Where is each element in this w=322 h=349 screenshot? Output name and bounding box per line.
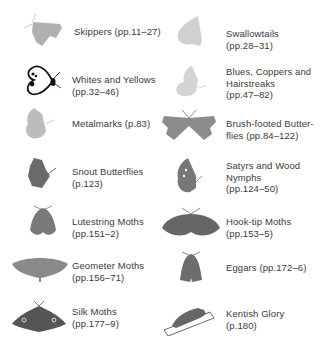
brush-footed-icon [160, 108, 218, 148]
snout-butterfly-icon [22, 156, 64, 196]
silk-moths-label: Silk Moths (pp.177–9) [72, 306, 119, 329]
whites-yellows-label: Whites and Yellows (pp.32–46) [72, 74, 156, 97]
geometer-moths-label: Geometer Moths (pp.156–71) [72, 260, 144, 283]
lutestring-moths-label: Lutestring Moths (pp.151–2) [72, 216, 144, 239]
kentish-glory-icon [162, 296, 218, 340]
hook-tip-moth-icon [160, 206, 222, 246]
white-butterfly-icon [22, 62, 64, 102]
skippers-label: Skippers (pp.11–27) [74, 26, 161, 38]
blues-coppers-label: Blues, Coppers and Hairstreaks (pp.47–82… [226, 66, 311, 101]
swallowtails-label: Swallowtails (pp.28–31) [226, 28, 279, 51]
skipper-icon [20, 12, 65, 52]
lutestring-moth-icon [22, 204, 64, 244]
eggar-moth-icon [176, 250, 206, 290]
satyr-icon [172, 156, 212, 200]
blue-butterfly-icon [170, 60, 210, 104]
satyrs-label: Satyrs and Wood Nymphs (pp.124–50) [226, 160, 300, 195]
metalmarks-label: Metalmarks (p.83) [72, 118, 150, 130]
eggars-label: Eggars (pp.172–6) [226, 262, 306, 274]
swallowtail-icon [170, 12, 210, 52]
kentish-glory-label: Kentish Glory (p.180) [226, 308, 284, 331]
snout-butterflies-label: Snout Butterflies (p.123) [72, 166, 143, 189]
silk-moth-icon [10, 300, 68, 338]
hook-tip-moths-label: Hook-tip Moths (pp.153–5) [226, 216, 291, 239]
metalmark-icon [20, 106, 60, 146]
brush-footed-label: Brush-footed Butter- flies (pp.84–122) [226, 118, 314, 141]
geometer-moth-icon [10, 254, 70, 288]
